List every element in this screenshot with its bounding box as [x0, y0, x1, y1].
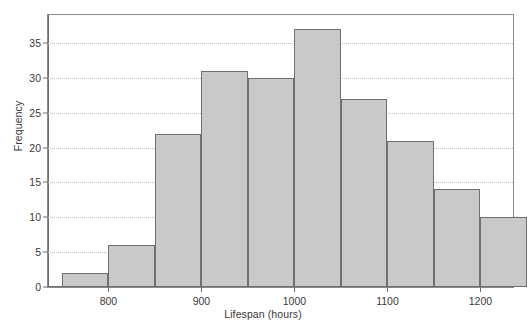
x-tick-mark [201, 287, 202, 292]
x-tick-label: 800 [100, 295, 118, 307]
x-tick-mark [294, 287, 295, 292]
x-tick-label: 1200 [469, 295, 492, 307]
y-tick-label: 25 [29, 107, 41, 119]
histogram-bar [341, 99, 388, 287]
y-tick-label: 15 [29, 176, 41, 188]
histogram-bar [248, 78, 295, 287]
x-tick-label: 1000 [283, 295, 306, 307]
y-tick-mark [43, 252, 48, 253]
y-tick-mark [43, 182, 48, 183]
histogram-bar [387, 141, 434, 287]
histogram-bar [201, 71, 248, 287]
y-tick-label: 35 [29, 37, 41, 49]
plot-area: 05101520253035800900100011001200 [47, 14, 514, 288]
y-tick-label: 10 [29, 211, 41, 223]
y-tick-mark [43, 77, 48, 78]
y-gridline [48, 43, 513, 44]
y-tick-mark [43, 287, 48, 288]
x-axis-title: Lifespan (hours) [0, 308, 526, 320]
y-tick-label: 0 [35, 281, 41, 293]
histogram-bar [155, 134, 202, 287]
histogram-bar [480, 217, 527, 287]
y-tick-label: 5 [35, 246, 41, 258]
histogram-bar [434, 189, 481, 287]
y-axis-title: Frequency [12, 86, 24, 166]
y-tick-mark [43, 217, 48, 218]
histogram-bar [62, 273, 109, 287]
x-tick-mark [387, 287, 388, 292]
histogram-bar [108, 245, 155, 287]
y-tick-label: 20 [29, 142, 41, 154]
y-tick-mark [43, 112, 48, 113]
y-tick-mark [43, 42, 48, 43]
x-tick-mark [108, 287, 109, 292]
x-tick-label: 900 [193, 295, 211, 307]
y-tick-label: 30 [29, 72, 41, 84]
x-tick-label: 1100 [376, 295, 399, 307]
y-axis-line [48, 15, 49, 287]
y-tick-mark [43, 147, 48, 148]
x-tick-mark [480, 287, 481, 292]
histogram-bar [294, 29, 341, 287]
